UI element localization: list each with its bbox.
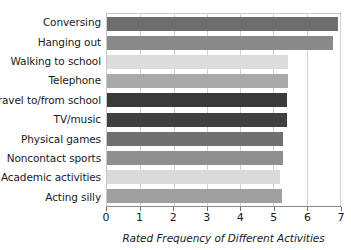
- x-tick-label: 2: [170, 211, 177, 224]
- bar-row: [107, 129, 340, 148]
- category-axis: ConversingHanging outWalking to schoolTe…: [0, 13, 104, 207]
- category-label: Acting silly: [45, 192, 101, 203]
- bar-row: [107, 33, 340, 52]
- x-tick-label: 3: [203, 211, 210, 224]
- category-label-row: TV/music: [0, 110, 104, 129]
- category-label: Telephone: [49, 75, 101, 86]
- bar-row: [107, 148, 340, 167]
- bar-row: [107, 14, 340, 33]
- bar-row: [107, 72, 340, 91]
- bar: [107, 17, 338, 31]
- category-label-row: Physical games: [0, 129, 104, 148]
- bar-row: [107, 168, 340, 187]
- x-tick-label: 4: [237, 211, 244, 224]
- x-tick-label: 5: [270, 211, 277, 224]
- x-tick-label: 0: [103, 211, 110, 224]
- bar: [107, 93, 287, 107]
- plot-area: [106, 13, 341, 207]
- category-label-row: Academic activities: [0, 168, 104, 187]
- bar-row: [107, 187, 340, 206]
- bar: [107, 132, 283, 146]
- bar-row: [107, 110, 340, 129]
- category-label-row: Hanging out: [0, 32, 104, 51]
- bar: [107, 170, 280, 184]
- bar-chart: ConversingHanging outWalking to schoolTe…: [0, 0, 351, 250]
- x-tick-label: 1: [136, 211, 143, 224]
- category-label: Hanging out: [38, 37, 101, 48]
- bars-layer: [107, 14, 340, 206]
- category-label: TV/music: [54, 114, 101, 125]
- category-label-row: Travel to/from school: [0, 91, 104, 110]
- bar: [107, 74, 288, 88]
- x-axis: 01234567: [106, 207, 341, 229]
- x-tick-label: 7: [338, 211, 345, 224]
- bar: [107, 113, 287, 127]
- bar-row: [107, 91, 340, 110]
- bar-row: [107, 52, 340, 71]
- x-tick-label: 6: [304, 211, 311, 224]
- bar: [107, 151, 283, 165]
- category-label: Walking to school: [10, 56, 101, 67]
- category-label-row: Telephone: [0, 71, 104, 90]
- category-label: Conversing: [43, 17, 101, 28]
- gridline: [340, 14, 341, 206]
- bar: [107, 189, 282, 203]
- category-label-row: Acting silly: [0, 188, 104, 207]
- bar: [107, 36, 333, 50]
- category-label: Travel to/from school: [0, 95, 101, 106]
- category-label: Noncontact sports: [7, 153, 101, 164]
- category-label: Physical games: [21, 134, 101, 145]
- bar: [107, 55, 288, 69]
- x-axis-title: Rated Frequency of Different Activities: [106, 232, 341, 244]
- category-label-row: Noncontact sports: [0, 149, 104, 168]
- category-label: Academic activities: [1, 172, 101, 183]
- category-label-row: Walking to school: [0, 52, 104, 71]
- category-label-row: Conversing: [0, 13, 104, 32]
